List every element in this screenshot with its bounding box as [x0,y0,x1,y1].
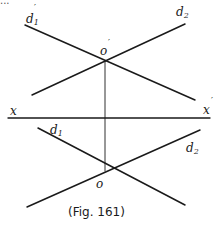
label-d1-sub: 1 [58,129,63,138]
prime-mark-d1: ′ [34,3,36,13]
label-d2: d2 [186,142,199,156]
label-d1-prime-sub: 1 [34,18,39,27]
label-x-prime: x [203,104,210,116]
label-d2-base: d [186,141,194,155]
label-o-prime-base: o [100,44,107,58]
label-d2-sub: 2 [194,147,199,156]
label-o: o [96,178,103,190]
line-d2 [27,130,200,207]
label-d1: d1 [50,124,63,138]
descriptive-geometry-figure [0,0,217,230]
prime-mark-o: ′ [108,38,110,48]
label-x-base: x [10,104,17,118]
label-x: x [10,105,17,117]
label-o-base: o [96,177,103,191]
label-d2-prime: d2 [176,6,189,20]
label-d1-base: d [50,123,58,137]
figure-caption: (Fig. 161) [68,205,125,219]
prime-mark-x: ′ [211,96,213,106]
label-d1-prime-base: d [26,12,34,26]
line-d1 [38,128,185,205]
label-x-prime-base: x [203,103,210,117]
label-d1-prime: d1 [26,13,39,27]
label-d2-prime-sub: 2 [184,11,189,20]
line-d2-prime [32,24,185,95]
label-d2-prime-base: d [176,5,184,19]
label-o-prime: o [100,45,107,57]
line-d1-prime [25,25,195,100]
